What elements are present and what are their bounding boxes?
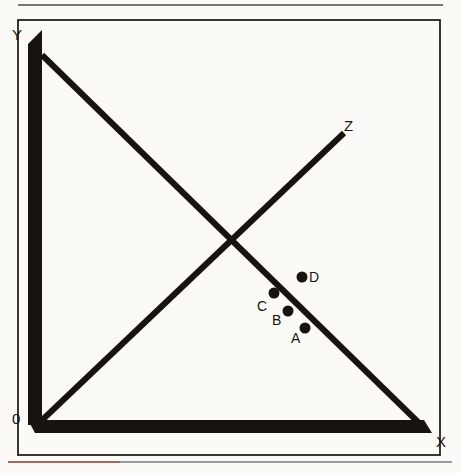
point-c-label: C [257,299,267,313]
point-a-dot [300,323,311,334]
y-axis-label: Y [12,27,22,42]
diagram-canvas [0,0,461,473]
point-b-dot [283,306,294,317]
y-axis-bar [28,30,42,425]
point-a-label: A [291,331,300,345]
x-axis-bar [28,420,432,433]
ray-z-label: Z [344,118,353,133]
point-d-dot [297,272,308,283]
origin-label: 0 [12,411,20,426]
economics-diagram-figure: Y 0 X Z A B C D [0,0,461,473]
x-axis-label: X [436,434,446,449]
point-b-label: B [272,313,281,327]
point-c-dot [269,288,280,299]
point-d-label: D [309,270,319,284]
